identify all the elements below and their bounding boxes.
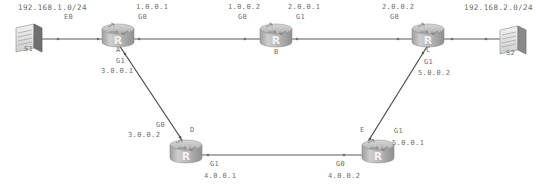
- link-endpoint-dot: [485, 38, 488, 41]
- interface-label-a-g1: G1: [116, 57, 125, 66]
- interface-label-b-g1: G1: [296, 13, 305, 22]
- network-label-right: 192.168.2.0/24: [464, 3, 533, 12]
- interface-label-d-g1: G1: [210, 160, 219, 169]
- interface-label-b-g0: G0: [238, 13, 247, 22]
- router-label-a: A: [116, 46, 121, 55]
- interface-ip-e-g0: 4.0.0.2: [328, 172, 360, 181]
- link-endpoint-dot: [343, 154, 346, 157]
- interface-label-a-e0: E0: [64, 13, 73, 22]
- network-label-left: 192.168.1.0/24: [18, 3, 87, 12]
- diagram-graphics-layer: R R R R: [0, 0, 540, 187]
- link-endpoint-dot: [97, 38, 100, 41]
- link-endpoint-dot: [296, 38, 299, 41]
- svg-text:R: R: [374, 150, 383, 163]
- interface-label-c-g0: G0: [390, 13, 399, 22]
- link-endpoint-dot: [397, 38, 400, 41]
- interface-ip-b-g1: 2.0.0.1: [288, 3, 320, 12]
- link-endpoint-dot: [422, 52, 425, 55]
- router-icon[interactable]: R: [362, 139, 394, 163]
- interface-ip-d-g1: 4.0.0.1: [204, 172, 236, 181]
- interface-ip-a-g1: 3.0.0.1: [101, 67, 133, 76]
- interface-ip-d-g0: 3.0.0.2: [128, 131, 160, 140]
- router-icon[interactable]: R: [170, 139, 202, 163]
- link-endpoint-dot: [207, 154, 210, 157]
- svg-text:R: R: [272, 34, 281, 47]
- router-label-c: C: [426, 46, 431, 55]
- link-endpoint-dot: [179, 136, 182, 139]
- interface-ip-a-g0: 1.0.0.1: [136, 3, 168, 12]
- interface-ip-e-g1: 5.0.0.1: [392, 139, 424, 148]
- interface-label-a-g0: G0: [138, 13, 147, 22]
- interface-ip-c-g0: 2.0.0.2: [382, 3, 414, 12]
- interface-label-d-g0: G0: [156, 121, 165, 130]
- router-label-d: D: [190, 126, 195, 135]
- link-endpoint-dot: [451, 38, 454, 41]
- switch-label-s1: S1: [24, 45, 33, 54]
- link-endpoint-dot: [138, 38, 141, 41]
- interface-ip-c-g1: 5.0.0.2: [418, 69, 450, 78]
- router-icon[interactable]: R: [412, 23, 444, 47]
- links-group: [42, 38, 500, 157]
- link-endpoint-dot: [244, 38, 247, 41]
- network-diagram-canvas: R R R R: [0, 0, 540, 187]
- link-endpoint-dot: [57, 38, 60, 41]
- link-endpoint-dot: [369, 138, 372, 141]
- interface-ip-b-g0: 1.0.0.2: [228, 3, 260, 12]
- router-icon[interactable]: R: [102, 23, 134, 47]
- svg-text:R: R: [182, 150, 191, 163]
- interface-label-e-g1: G1: [394, 127, 403, 136]
- router-label-b: B: [274, 48, 279, 57]
- router-icon[interactable]: R: [260, 23, 292, 47]
- interface-label-c-g1: G1: [424, 58, 433, 67]
- router-label-e: E: [360, 126, 365, 135]
- interface-label-e-g0: G0: [336, 160, 345, 169]
- switch-label-s2: S2: [506, 49, 515, 58]
- link-endpoint-dot: [124, 53, 127, 56]
